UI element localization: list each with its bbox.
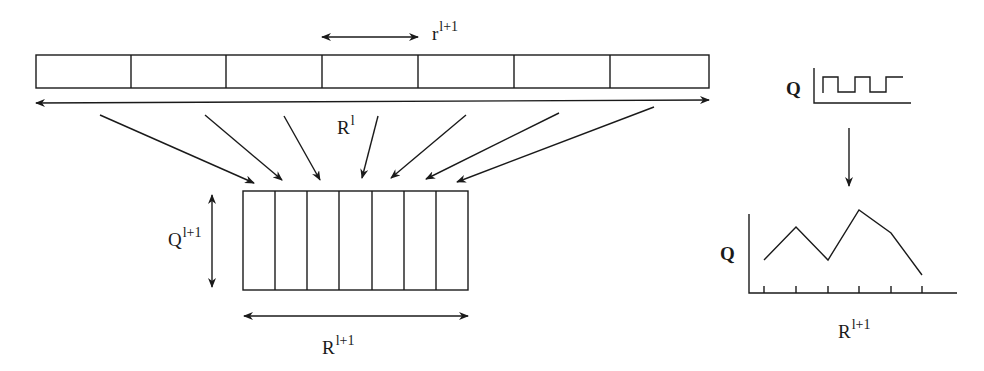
line-plot-x-sup: l+1 — [852, 317, 871, 332]
line-plot-y-label: Q — [720, 244, 735, 263]
square-wave-axis-label: Q — [786, 79, 801, 98]
output-height-base: Q — [168, 229, 182, 250]
line-plot-series — [764, 210, 922, 275]
mapping-arrows — [100, 107, 654, 183]
line-plot — [749, 210, 957, 293]
output-grid — [243, 191, 468, 290]
square-wave-plot — [814, 68, 911, 103]
line-plot-x-label: Rl+1 — [838, 322, 870, 341]
input-strip — [36, 55, 709, 88]
output-height-sup: l+1 — [183, 225, 202, 240]
input-length-sup: l — [351, 113, 355, 128]
output-length-label: Rl+1 — [322, 338, 354, 357]
diagram-canvas — [0, 0, 984, 371]
line-plot-x-base: R — [838, 321, 851, 342]
input-length-label: Rl — [337, 118, 355, 137]
window-size-sup: l+1 — [439, 19, 458, 34]
window-size-label: rl+1 — [432, 24, 458, 43]
window-size-base: r — [432, 23, 438, 44]
input-length-arrow — [36, 100, 709, 103]
output-length-sup: l+1 — [336, 333, 355, 348]
output-length-base: R — [322, 337, 335, 358]
input-length-base: R — [337, 117, 350, 138]
output-height-label: Ql+1 — [168, 230, 202, 249]
